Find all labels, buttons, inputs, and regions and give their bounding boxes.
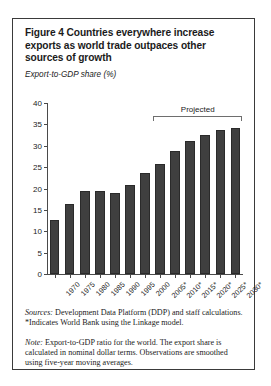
y-tick-label: 0: [38, 270, 42, 279]
bar: [185, 141, 195, 274]
bar: [170, 151, 180, 274]
x-tick: [70, 275, 71, 278]
bar: [200, 135, 210, 274]
chart-plot-area: 0510152025303540 19701975198019851990199…: [47, 103, 243, 275]
bar: [231, 128, 241, 274]
x-tick: [220, 275, 221, 278]
x-tick-label: 1980: [94, 280, 112, 298]
y-tick-label: 30: [33, 141, 42, 150]
y-tick: [44, 253, 47, 254]
y-tick: [44, 210, 47, 211]
note-label: Note:: [25, 338, 43, 347]
x-tick-label: 1995: [139, 280, 157, 298]
x-tick: [235, 275, 236, 278]
y-tick-label: 5: [38, 248, 42, 257]
y-tick-label: 40: [33, 99, 42, 108]
bar: [125, 185, 135, 274]
bar: [216, 130, 226, 274]
projected-bracket: [153, 116, 242, 121]
x-tick: [130, 275, 131, 278]
bar: [65, 204, 75, 274]
y-tick-label: 15: [33, 205, 42, 214]
y-tick: [44, 274, 47, 275]
x-tick-label: 1990: [124, 280, 142, 298]
x-tick: [205, 275, 206, 278]
note-text: Export-to-GDP ratio for the world. The e…: [25, 338, 228, 367]
general-note: Note: Export-to-GDP ratio for the world.…: [25, 338, 245, 369]
bar: [140, 173, 150, 274]
x-tick: [100, 275, 101, 278]
y-tick-label: 35: [33, 120, 42, 129]
y-tick: [44, 146, 47, 147]
y-tick: [44, 103, 47, 104]
y-tick: [44, 189, 47, 190]
x-tick: [190, 275, 191, 278]
figure-panel: Figure 4 Countries everywhere increase e…: [12, 18, 255, 370]
bar: [110, 193, 120, 274]
x-tick-label: 2030*: [245, 280, 265, 300]
bar: [50, 220, 60, 274]
y-tick: [44, 231, 47, 232]
x-tick-label: 1970: [63, 280, 81, 298]
x-tick: [145, 275, 146, 278]
x-tick: [85, 275, 86, 278]
y-tick: [44, 124, 47, 125]
y-tick-label: 25: [33, 163, 42, 172]
bar: [80, 191, 90, 274]
bar: [155, 164, 165, 274]
y-tick-label: 10: [33, 227, 42, 236]
x-tick-label: 1975: [78, 280, 96, 298]
bar: [95, 191, 105, 274]
plot-frame: 0510152025303540 19701975198019851990199…: [47, 103, 243, 275]
sources-label: Sources:: [25, 308, 53, 317]
x-tick: [55, 275, 56, 278]
x-tick-label: 1985: [109, 280, 127, 298]
projected-label: Projected: [181, 105, 215, 114]
x-tick: [175, 275, 176, 278]
y-axis-line: [47, 103, 48, 275]
y-tick-label: 20: [33, 184, 42, 193]
x-tick: [115, 275, 116, 278]
x-tick-label: 2000: [154, 280, 172, 298]
x-tick: [160, 275, 161, 278]
y-axis-caption: Export-to-GDP share (%): [25, 70, 116, 79]
sources-text: Development Data Platform (DDP) and staf…: [25, 308, 243, 327]
y-tick: [44, 167, 47, 168]
figure-title: Figure 4 Countries everywhere increase e…: [25, 27, 243, 65]
sources-note: Sources: Development Data Platform (DDP)…: [25, 308, 245, 328]
